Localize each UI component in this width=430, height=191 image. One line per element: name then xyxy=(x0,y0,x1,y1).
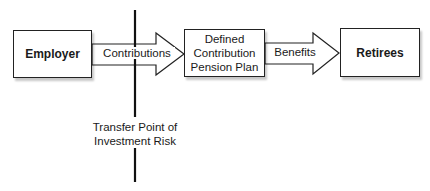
contributions-label: Contributions xyxy=(99,47,175,59)
dc-plan-label: Defined Contribution Pension Plan xyxy=(191,32,259,74)
risk-transfer-label: Transfer Point of Investment Risk xyxy=(80,120,190,148)
dc-plan-box: Defined Contribution Pension Plan xyxy=(184,29,265,77)
employer-label: Employer xyxy=(25,47,80,61)
retirees-box: Retirees xyxy=(340,28,420,77)
retirees-label: Retirees xyxy=(356,46,403,60)
employer-box: Employer xyxy=(13,30,92,78)
benefits-label: Benefits xyxy=(268,46,322,58)
